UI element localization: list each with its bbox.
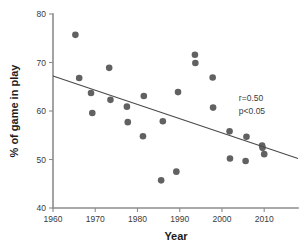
y-tick-label: 60 [37, 106, 47, 116]
statistic-annotations: r=0.50p<0.05 [239, 93, 266, 116]
scatter-point [72, 32, 79, 39]
scatter-point [173, 168, 180, 175]
y-tick-label: 40 [37, 203, 47, 213]
scatter-point [192, 51, 199, 58]
plot-canvas: 4050607080 196019701980199020002010 r=0.… [0, 0, 303, 249]
scatter-point [124, 103, 131, 110]
scatter-point [140, 133, 147, 140]
x-tick-label: 1960 [44, 214, 63, 224]
scatter-point [89, 110, 96, 117]
y-tick-label: 50 [37, 155, 47, 165]
scatter-point [227, 155, 234, 162]
annotation-pvalue: p<0.05 [239, 106, 266, 116]
scatter-point [76, 75, 83, 82]
x-tick-label: 1970 [86, 214, 105, 224]
scatter-point [175, 89, 182, 96]
annotation-correlation: r=0.50 [239, 93, 264, 103]
x-axis-title: Year [164, 230, 188, 242]
scatter-point [242, 158, 249, 165]
scatter-point [124, 119, 131, 126]
y-axis-ticks: 4050607080 [37, 9, 53, 213]
regression-trend-line [53, 76, 298, 158]
scatter-point [226, 128, 233, 135]
scatter-point [210, 104, 217, 111]
x-axis-ticks: 196019701980199020002010 [44, 208, 274, 224]
scatter-point [261, 151, 268, 158]
x-tick-label: 1980 [128, 214, 147, 224]
x-tick-label: 2000 [213, 214, 232, 224]
y-tick-label: 70 [37, 58, 47, 68]
scatter-point [106, 65, 113, 72]
scatter-point [107, 97, 114, 104]
scatter-point [158, 177, 165, 184]
x-tick-label: 2010 [255, 214, 274, 224]
scatter-point [160, 118, 167, 125]
scatter-point [141, 93, 148, 100]
y-axis-title: % of game in play [8, 64, 20, 158]
scatter-point [209, 74, 216, 81]
scatter-plot-figure: 4050607080 196019701980199020002010 r=0.… [0, 0, 303, 249]
scatter-point [243, 133, 250, 140]
scatter-point [88, 90, 95, 97]
x-tick-label: 1990 [170, 214, 189, 224]
scatter-point [192, 60, 199, 67]
y-tick-label: 80 [37, 9, 47, 19]
